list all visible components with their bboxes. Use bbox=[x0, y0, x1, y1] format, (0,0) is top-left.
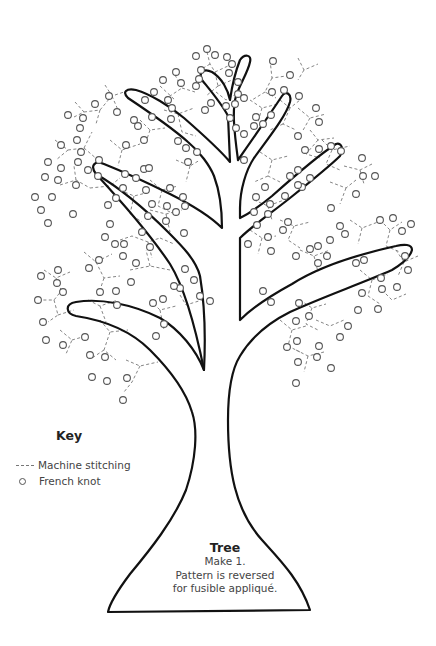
dashed-line-icon bbox=[16, 465, 34, 466]
key-item-label: French knot bbox=[39, 475, 101, 487]
tree-trunk-outline bbox=[68, 56, 412, 612]
tree-outline bbox=[68, 56, 412, 612]
caption-title: Tree bbox=[170, 540, 280, 555]
key-title: Key bbox=[56, 428, 166, 443]
pattern-caption: Tree Make 1. Pattern is reversed for fus… bbox=[170, 540, 280, 596]
legend-key: Key Machine stitching French knot bbox=[16, 428, 166, 489]
key-item-label: Machine stitching bbox=[38, 459, 131, 471]
caption-line: Make 1. bbox=[170, 555, 280, 569]
key-item-french-knot: French knot bbox=[16, 473, 166, 489]
caption-line: Pattern is reversed bbox=[170, 569, 280, 583]
caption-line: for fusible appliqué. bbox=[170, 582, 280, 596]
circle-icon bbox=[19, 478, 26, 485]
key-item-machine-stitching: Machine stitching bbox=[16, 457, 166, 473]
